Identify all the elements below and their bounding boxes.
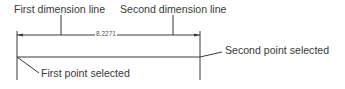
first-point-selected-label: First point selected	[41, 67, 130, 79]
right-arrowhead	[194, 34, 200, 37]
first-dimension-line-label: First dimension line	[14, 3, 105, 15]
second-dimension-line-label: Second dimension line	[120, 3, 226, 15]
dimension-value: 8.2271	[95, 30, 117, 37]
first-point-leader	[17, 57, 39, 73]
second-point-selected-label: Second point selected	[225, 44, 329, 56]
left-arrowhead	[17, 34, 23, 37]
second-point-leader	[200, 52, 222, 57]
